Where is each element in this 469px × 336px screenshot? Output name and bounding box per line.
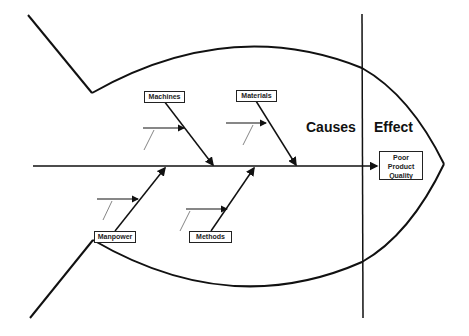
bone-methods [211,168,254,231]
effect-line-1: Poor [380,153,422,162]
effect-heading: Effect [374,119,413,135]
sub-sub-bone-machines [144,130,154,150]
effect-box: Poor Product Quality [379,151,423,180]
fish-tail-top [28,15,92,93]
sub-sub-bone-methods [180,211,190,231]
category-label-manpower: Manpower [94,231,136,243]
fish-body-top [92,47,444,164]
fish-body-bottom [93,164,444,286]
effect-line-2: Product [380,162,422,171]
bone-materials [256,101,296,165]
category-label-machines: Machines [144,91,185,103]
bone-machines [164,101,213,165]
causes-heading: Causes [306,119,356,135]
sub-sub-bone-materials [243,125,253,145]
sub-sub-bone-manpower [103,201,112,220]
effect-line-3: Quality [380,171,422,180]
category-label-methods: Methods [189,231,232,243]
fish-tail-bottom [30,240,93,318]
category-label-materials: Materials [236,90,277,102]
